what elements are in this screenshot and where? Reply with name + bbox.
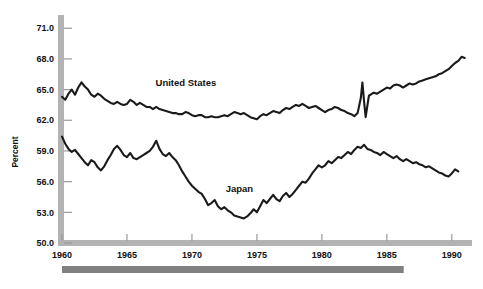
x-tick-label: 1980 xyxy=(312,250,332,260)
y-tick-label: 68.0 xyxy=(36,54,54,64)
x-tick-label: 1985 xyxy=(377,250,397,260)
x-tick-label: 1965 xyxy=(117,250,137,260)
x-tick-label: 1960 xyxy=(52,250,72,260)
y-tick-label: 65.0 xyxy=(36,85,54,95)
x-tick-label: 1970 xyxy=(182,250,202,260)
footer-accent-bar xyxy=(62,266,404,273)
series-line-japan xyxy=(62,137,458,219)
y-tick-labels: 50.053.056.059.062.065.068.071.0 xyxy=(36,23,54,248)
x-tick-label: 1990 xyxy=(442,250,462,260)
y-axis-band xyxy=(58,15,64,243)
x-tick-label: 1975 xyxy=(247,250,267,260)
x-tick-marks xyxy=(62,234,452,241)
series-annotations: United StatesJapan xyxy=(156,77,254,194)
y-tick-label: 50.0 xyxy=(36,238,54,248)
chart-figure: 50.053.056.059.062.065.068.071.0 1960196… xyxy=(0,0,483,289)
x-axis-band xyxy=(58,240,472,246)
line-chart: 50.053.056.059.062.065.068.071.0 1960196… xyxy=(0,0,483,289)
y-axis-title: Percent xyxy=(10,136,20,167)
y-tick-label: 62.0 xyxy=(36,115,54,125)
y-tick-marks xyxy=(64,28,72,243)
annotation-united-states: United States xyxy=(156,77,217,88)
y-tick-label: 53.0 xyxy=(36,208,54,218)
series-lines xyxy=(62,57,465,219)
y-tick-label: 56.0 xyxy=(36,177,54,187)
y-tick-label: 71.0 xyxy=(36,23,54,33)
annotation-japan: Japan xyxy=(226,183,254,194)
x-tick-labels: 1960196519701975198019851990 xyxy=(52,250,462,260)
y-tick-label: 59.0 xyxy=(36,146,54,156)
series-line-united-states xyxy=(62,57,465,119)
